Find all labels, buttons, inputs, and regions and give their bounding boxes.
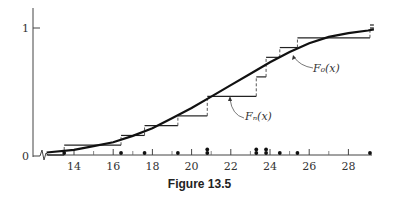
sample-point — [296, 151, 300, 155]
sample-point — [205, 148, 209, 152]
figure-13-5-chart: 1 0 1416182022242628 F₀(x) Fₙ(x) — [0, 0, 399, 205]
fn-leader-line — [230, 99, 244, 118]
sample-point — [254, 151, 258, 155]
sample-point — [264, 151, 268, 155]
x-tick-label: 22 — [224, 160, 238, 173]
f0-label: F₀(x) — [312, 62, 340, 75]
x-ticks — [74, 149, 348, 155]
sample-point — [62, 151, 66, 155]
sample-point — [205, 151, 209, 155]
sample-point — [254, 148, 258, 152]
theoretical-cdf-curve — [47, 29, 374, 152]
sample-point — [176, 151, 180, 155]
x-tick-label: 24 — [263, 160, 277, 173]
empirical-cdf-steps — [47, 25, 374, 155]
x-tick-label: 20 — [185, 160, 199, 173]
f0-leader-line — [294, 57, 313, 68]
sample-point — [119, 151, 123, 155]
y-tick-label-1: 1 — [22, 22, 29, 35]
fn-label: Fₙ(x) — [244, 110, 272, 123]
sample-point — [278, 151, 282, 155]
sample-point — [264, 148, 268, 152]
x-tick-label: 18 — [145, 160, 159, 173]
sample-point — [143, 151, 147, 155]
figure-caption: Figure 13.5 — [0, 177, 399, 191]
sample-points — [62, 148, 372, 155]
y-tick-label-0: 0 — [22, 150, 29, 163]
x-tick-label: 16 — [106, 160, 120, 173]
sample-point — [368, 151, 372, 155]
x-tick-labels: 1416182022242628 — [67, 160, 355, 173]
x-axis — [33, 150, 372, 160]
x-tick-label: 28 — [341, 160, 355, 173]
axis-break-icon — [33, 150, 48, 160]
x-tick-label: 26 — [302, 160, 316, 173]
x-tick-label: 14 — [67, 160, 81, 173]
